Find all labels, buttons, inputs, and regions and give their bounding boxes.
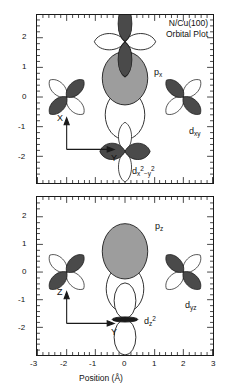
bottom-ytick-0: 0 bbox=[22, 268, 26, 276]
orbital-label-dz2: dz2 bbox=[144, 315, 156, 327]
top-panel: N/Cu(100) Orbital Plot px dxy dx2−y2 X Y bbox=[36, 14, 214, 184]
orbital-label-dyz-right: dyz bbox=[185, 300, 197, 311]
top-ytick-m1: -1 bbox=[18, 123, 25, 131]
axis-inset-label-z: Z bbox=[57, 287, 63, 297]
bottom-ytick-m2: -2 bbox=[18, 324, 25, 332]
panel-title-line1: N/Cu(100) bbox=[169, 18, 208, 28]
panel-title-line2: Orbital Plot bbox=[166, 29, 208, 39]
bottom-ytick-1: 1 bbox=[22, 240, 26, 248]
axis-inset-label-y-bottom: Y bbox=[111, 327, 117, 337]
bottom-ytick-m1: -1 bbox=[18, 296, 25, 304]
top-ytick-1: 1 bbox=[22, 63, 26, 71]
xtick-m2: -2 bbox=[60, 360, 67, 368]
orbital-plot-figure: Position (Å) bbox=[0, 0, 227, 389]
axis-inset-label-x: X bbox=[57, 113, 63, 123]
xtick-2: 2 bbox=[181, 360, 185, 368]
orbital-label-dx2y2: dx2−y2 bbox=[132, 165, 155, 177]
bottom-ytick-2: 2 bbox=[22, 212, 26, 220]
axis-inset-label-y-top: Y bbox=[111, 153, 117, 163]
xtick-m1: -1 bbox=[89, 360, 96, 368]
xtick-m3: -3 bbox=[30, 360, 37, 368]
top-ytick-2: 2 bbox=[22, 33, 26, 41]
top-ytick-m2: -2 bbox=[18, 153, 25, 161]
xtick-0: 0 bbox=[122, 360, 126, 368]
orbital-label-dxy-right: dxy bbox=[189, 126, 201, 137]
orbital-dyz-right bbox=[162, 251, 205, 294]
x-axis-title: Position (Å) bbox=[79, 373, 123, 383]
xtick-3: 3 bbox=[211, 360, 215, 368]
top-panel-orbitals bbox=[37, 15, 213, 183]
bottom-panel-orbitals bbox=[37, 197, 213, 355]
bottom-panel: pz dyz dz2 Z Y bbox=[36, 196, 214, 356]
orbital-label-px: px bbox=[154, 67, 162, 78]
axis-inset-bottom bbox=[64, 292, 114, 326]
orbital-label-pz: pz bbox=[155, 221, 163, 232]
orbital-dx2y2-upper bbox=[94, 15, 155, 77]
xtick-1: 1 bbox=[152, 360, 156, 368]
orbital-dz2 bbox=[112, 283, 138, 355]
orbital-dyz-left bbox=[45, 251, 88, 294]
orbital-dxy-right bbox=[162, 76, 205, 119]
top-ytick-0: 0 bbox=[22, 93, 26, 101]
orbital-dxy-left bbox=[45, 76, 88, 119]
